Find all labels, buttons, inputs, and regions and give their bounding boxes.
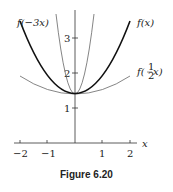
y-tick-label: 2 bbox=[64, 68, 70, 79]
y-tick-label: 3 bbox=[64, 33, 70, 44]
x-tick-label: −2 bbox=[13, 148, 28, 159]
figure: −2 −1 1 2 x 1 2 3 f(−3x) f(x) f( 1 2 x) … bbox=[0, 0, 173, 192]
x-tick-label: −1 bbox=[41, 148, 56, 159]
y-tick-label: 1 bbox=[64, 103, 70, 114]
svg-text:f(: f( bbox=[136, 66, 146, 77]
label-f-x: f(x) bbox=[136, 17, 154, 28]
label-f-half-x: f( 1 2 x) bbox=[136, 61, 163, 81]
figure-caption: Figure 6.20 bbox=[60, 169, 113, 180]
x-axis-label: x bbox=[142, 138, 148, 149]
x-tick-label: 2 bbox=[127, 148, 133, 159]
svg-text:x): x) bbox=[153, 66, 163, 77]
x-tick-label: 1 bbox=[99, 148, 105, 159]
label-f-neg3x: f(−3x) bbox=[16, 17, 49, 28]
